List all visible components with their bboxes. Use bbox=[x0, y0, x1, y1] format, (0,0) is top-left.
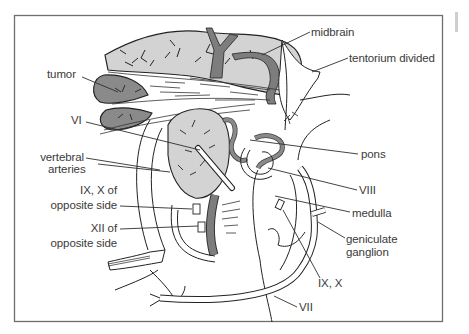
label-vii: VII bbox=[299, 301, 313, 314]
label-vi: VI bbox=[71, 114, 82, 127]
label-ix-x-opposite-line2: opposite side bbox=[30, 199, 117, 212]
label-geniculate-line2: ganglion bbox=[346, 246, 389, 259]
cerebellum-drawing bbox=[168, 109, 284, 255]
tumor-drawing bbox=[94, 75, 152, 130]
label-viii: VIII bbox=[359, 184, 376, 197]
label-tumor: tumor bbox=[47, 68, 76, 81]
label-tentorium-divided: tentorium divided bbox=[349, 52, 435, 65]
label-geniculate-line1: geniculate bbox=[346, 233, 397, 246]
label-xii-opposite-line1: XII of bbox=[30, 222, 117, 235]
label-ix-x-opposite-line1: IX, X of bbox=[30, 184, 117, 197]
facial-nerve-vii bbox=[150, 168, 325, 306]
label-midbrain: midbrain bbox=[311, 26, 354, 39]
anatomy-figure: midbrain tentorium divided tumor VI vert… bbox=[0, 0, 469, 334]
label-xii-opposite-line2: opposite side bbox=[30, 237, 117, 250]
label-vertebral-line2: arteries bbox=[48, 163, 86, 176]
label-pons: pons bbox=[361, 148, 386, 161]
page-edge-mark bbox=[455, 12, 458, 32]
tentorium-flap bbox=[279, 40, 350, 130]
label-ix-x: IX, X bbox=[318, 277, 342, 290]
label-medulla: medulla bbox=[352, 207, 392, 220]
